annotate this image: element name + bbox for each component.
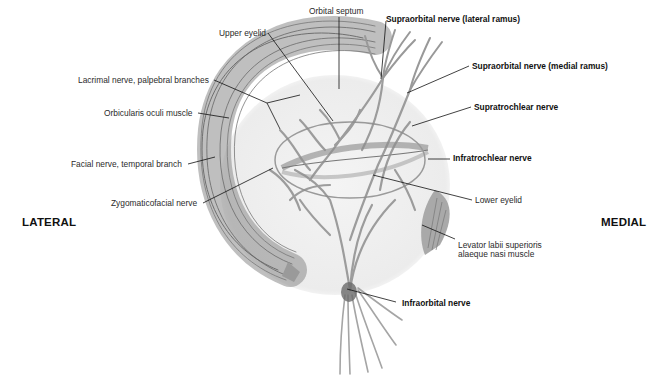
label-facial-nerve: Facial nerve, temporal branch <box>71 159 182 169</box>
label-infraorbital: Infraorbital nerve <box>402 298 470 308</box>
anatomy-diagram: Orbital septum Upper eyelid Lacrimal ner… <box>0 0 654 388</box>
label-orbicularis-oculi: Orbicularis oculi muscle <box>104 108 192 118</box>
eyelid-illustration <box>0 0 654 388</box>
label-zygomaticofacial: Zygomaticofacial nerve <box>111 198 197 208</box>
label-infratrochlear: Infratrochlear nerve <box>453 153 532 163</box>
label-levator-labii-line2: alaeque nasi muscle <box>458 249 534 259</box>
label-supraorbital-lateral: Supraorbital nerve (lateral ramus) <box>386 14 520 24</box>
orientation-lateral: LATERAL <box>22 216 76 228</box>
label-orbital-septum: Orbital septum <box>309 6 363 16</box>
label-supratrochlear: Supratrochlear nerve <box>474 102 558 112</box>
orientation-medial: MEDIAL <box>601 216 646 228</box>
label-lower-eyelid: Lower eyelid <box>475 195 522 205</box>
label-upper-eyelid: Upper eyelid <box>219 28 266 38</box>
infraorbital-foramen <box>341 282 357 302</box>
label-lacrimal-nerve: Lacrimal nerve, palpebral branches <box>78 75 209 85</box>
label-supraorbital-medial: Supraorbital nerve (medial ramus) <box>472 61 608 71</box>
